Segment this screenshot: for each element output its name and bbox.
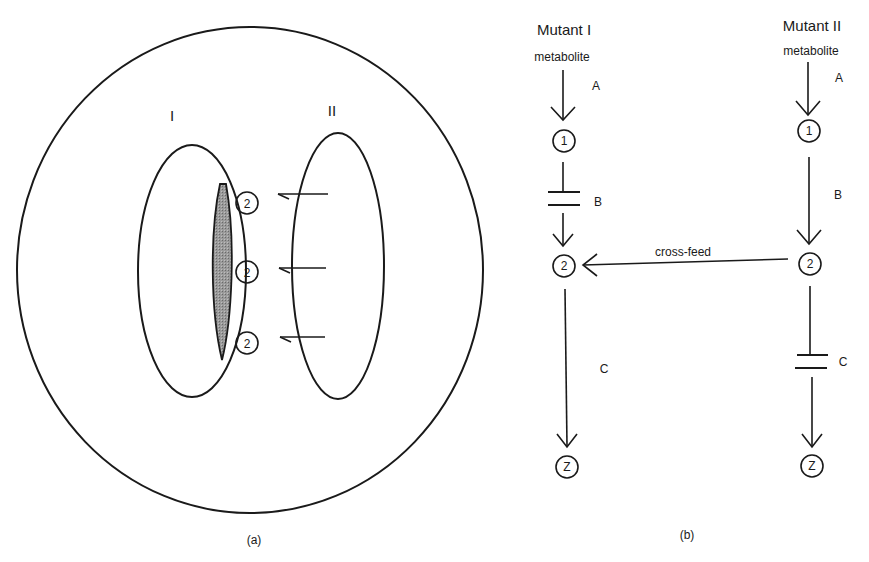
mutant-i-node-1-label: 1 xyxy=(561,134,568,148)
mutant-ii-step-b: B xyxy=(834,188,842,202)
mutant-ii-node-z-label: Z xyxy=(808,459,815,473)
panel-b-caption: (b) xyxy=(680,528,695,542)
mutant-i-step-b: B xyxy=(594,195,602,209)
molecule-2-bottom: 2 xyxy=(236,332,325,354)
mutant-ii-step-c: C xyxy=(839,355,848,369)
svg-text:2: 2 xyxy=(244,337,251,351)
mutant-ii-title: Mutant II xyxy=(783,17,841,34)
feeding-zone-shaded xyxy=(213,184,232,360)
cross-feed-label: cross-feed xyxy=(655,245,711,259)
molecule-2-top: 2 xyxy=(236,192,328,214)
molecule-2-middle: 2 xyxy=(236,261,326,283)
diagram-canvas: I II 2 2 2 (a) Mutant I metabolite xyxy=(0,0,869,562)
cell-colony-ii xyxy=(292,133,384,399)
mutant-i-pathway: Mutant I metabolite A 1 B 2 C Z xyxy=(534,21,608,478)
svg-text:2: 2 xyxy=(244,266,251,280)
cell-label-i: I xyxy=(170,107,174,124)
mutant-i-node-2-label: 2 xyxy=(561,259,568,273)
mutant-ii-pathway: Mutant II metabolite A 1 B 2 C Z xyxy=(783,17,848,477)
mutant-i-title: Mutant I xyxy=(537,21,591,38)
svg-text:2: 2 xyxy=(244,197,251,211)
cell-label-ii: II xyxy=(328,102,336,119)
mutant-i-step-c: C xyxy=(600,362,609,376)
mutant-ii-node-2-label: 2 xyxy=(807,257,814,271)
mutant-ii-source: metabolite xyxy=(783,44,839,58)
mutant-ii-step-a: A xyxy=(835,71,843,85)
panel-b: Mutant I metabolite A 1 B 2 C Z xyxy=(534,17,847,542)
panel-a: I II 2 2 2 (a) xyxy=(17,27,483,547)
mutant-ii-node-1-label: 1 xyxy=(806,124,813,138)
mutant-i-step-a: A xyxy=(592,79,600,93)
panel-a-caption: (a) xyxy=(247,533,262,547)
mutant-i-source: metabolite xyxy=(534,50,590,64)
cross-feed-arrow: cross-feed xyxy=(583,245,788,276)
mutant-i-node-z-label: Z xyxy=(563,460,570,474)
